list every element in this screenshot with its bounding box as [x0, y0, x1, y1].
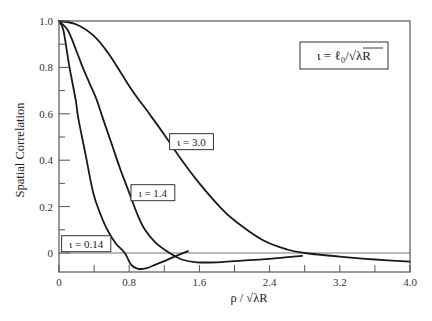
x-tick-label: 0.8: [122, 276, 136, 288]
x-tick-label: 0: [56, 276, 62, 288]
x-axis-title: ρ / √λR: [230, 291, 268, 305]
x-tick-label: 1.6: [193, 276, 207, 288]
legend-formula: ι = ℓ₀/√λR: [317, 48, 371, 63]
y-axis-title: Spatial Correlation: [13, 102, 27, 198]
y-tick-label: 0.4: [39, 154, 53, 166]
curve-label: ι = 0.14: [69, 238, 103, 250]
x-tick-label: 2.4: [263, 276, 277, 288]
y-tick-label: 0.2: [39, 201, 53, 213]
curve-label: ι = 1.4: [139, 187, 168, 199]
x-tick-label: 3.2: [333, 276, 347, 288]
legend: ι = ℓ₀/√λR: [300, 42, 388, 69]
y-tick-label: 0.6: [39, 108, 53, 120]
spatial-correlation-chart: 00.20.40.60.81.000.81.62.43.24.0 ι = 0.1…: [0, 0, 432, 321]
curve-label: ι = 3.0: [177, 136, 206, 148]
y-tick-label: 0: [48, 247, 54, 259]
y-tick-label: 0.8: [39, 61, 53, 73]
x-tick-label: 4.0: [403, 276, 417, 288]
y-tick-label: 1.0: [39, 15, 53, 27]
